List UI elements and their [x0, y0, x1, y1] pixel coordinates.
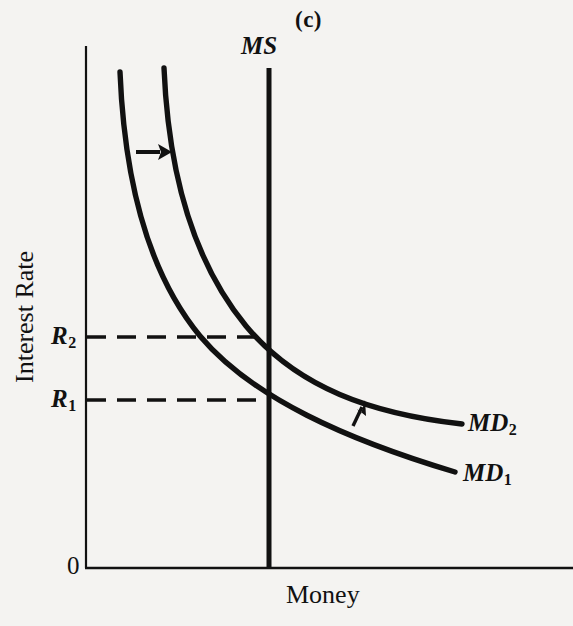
curve-label-MD2: MD2 [468, 410, 517, 438]
y-tick-label-R2-base: R [51, 322, 68, 349]
y-tick-label-R1: R1 [51, 386, 76, 414]
origin-label: 0 [67, 553, 80, 578]
panel-letter: (c) [295, 8, 322, 31]
figure-canvas [0, 0, 573, 626]
curve-label-MD1: MD1 [463, 460, 512, 488]
x-axis-title: Money [286, 582, 360, 608]
y-tick-label-R1-base: R [51, 385, 68, 412]
curve-label-MD1-sub: 1 [504, 471, 512, 488]
y-axis-title: Interest Rate [12, 251, 38, 383]
money-demand-curve-MD2 [164, 68, 462, 424]
curve-label-MD2-sub: 2 [509, 421, 517, 438]
y-tick-label-R1-sub: 1 [68, 397, 76, 414]
curve-label-MS-base: MS [241, 32, 277, 59]
money-market-figure: (c) MS MD2 MD1 R2 R1 0 Money Interest Ra… [0, 0, 573, 626]
curve-label-MD1-base: MD [463, 459, 503, 486]
rightward-shift-arrow-icon [136, 144, 172, 160]
curve-label-MD2-base: MD [468, 409, 508, 436]
curve-label-MS: MS [241, 33, 277, 58]
y-tick-label-R2: R2 [51, 323, 76, 351]
y-tick-label-R2-sub: 2 [68, 334, 76, 351]
